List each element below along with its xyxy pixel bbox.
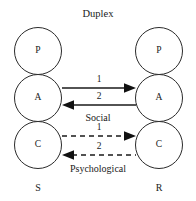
node-label-sender-adult: A	[35, 93, 42, 103]
column-end-label-receiver: R	[156, 183, 163, 193]
node-label-sender-parent: P	[35, 46, 40, 56]
node-label-sender-child: C	[35, 140, 41, 150]
column-end-label-sender: S	[35, 183, 41, 193]
node-label-receiver-child: C	[156, 140, 162, 150]
psychological-transaction-1-arrowhead-right	[124, 131, 136, 141]
psychological-transaction-2-arrowhead-left	[62, 150, 74, 160]
social-transaction-1-arrowhead-right	[124, 83, 136, 93]
social-transaction-2-number: 2	[97, 92, 102, 102]
diagram-title: Duplex	[83, 9, 114, 20]
node-label-receiver-parent: P	[156, 46, 161, 56]
channel-label-psychological: Psychological	[70, 164, 126, 174]
node-label-receiver-adult: A	[156, 93, 163, 103]
social-transaction-1-number: 1	[97, 75, 102, 85]
psychological-transaction-2-number: 2	[97, 142, 102, 152]
psychological-transaction-1-number: 1	[97, 123, 102, 133]
social-transaction-2-arrowhead-left	[62, 100, 74, 110]
duplex-transaction-diagram: Duplex P A C P A C 1 2 Social 1 2 Psycho…	[0, 0, 196, 201]
